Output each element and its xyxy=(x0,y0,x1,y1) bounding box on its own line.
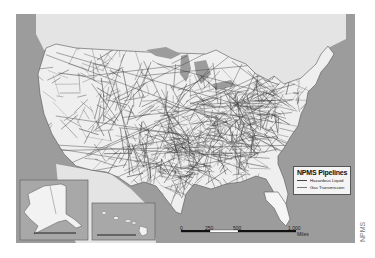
legend-item-hazardous-liquid: Hazardous Liquid xyxy=(297,178,347,183)
gas-transmission-line-icon xyxy=(297,187,307,188)
hawaii-inset xyxy=(92,203,155,240)
credit-text: NPMS xyxy=(359,222,366,242)
scale-label-250: 250 xyxy=(205,225,213,231)
alaska-inset xyxy=(20,180,88,240)
legend-label: Hazardous Liquid xyxy=(310,178,343,183)
scale-label-500: 500 xyxy=(233,225,241,231)
legend-title: NPMS Pipelines xyxy=(297,169,347,176)
scale-label-0: 0 xyxy=(180,225,183,231)
scale-unit: Miles xyxy=(297,231,309,237)
legend-item-gas-transmission: Gas Transmission xyxy=(297,185,347,190)
map-legend: NPMS Pipelines Hazardous Liquid Gas Tran… xyxy=(293,166,351,195)
hazardous-liquid-line-icon xyxy=(297,180,307,181)
legend-label: Gas Transmission xyxy=(310,185,344,190)
pipeline-map xyxy=(16,14,355,243)
